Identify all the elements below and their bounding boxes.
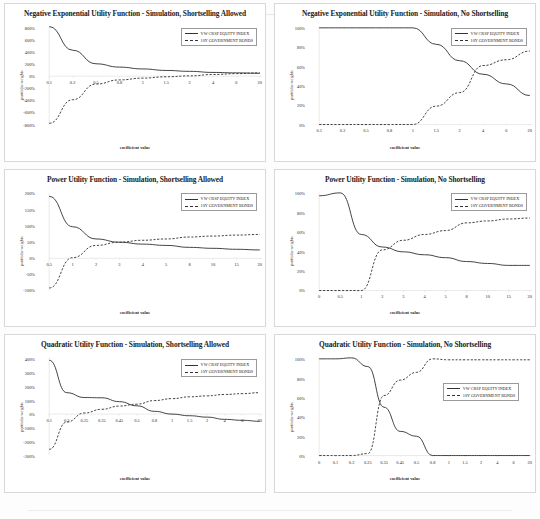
legend-label: VW CRSP EQUITY INDEX [201,196,250,201]
legend-entry: 10Y GOVERNMENT BONDS [455,38,524,43]
legend-entry: 10Y GOVERNMENT BONDS [447,393,516,398]
chart-legend[interactable]: VW CRSP EQUITY INDEX10Y GOVERNMENT BONDS [181,193,258,211]
chart-legend[interactable]: VW CRSP EQUITY INDEX10Y GOVERNMENT BONDS [181,28,258,46]
chart-title: Negative Exponential Utility Function - … [5,4,265,20]
chart-cell-neg-exp-no-shortselling: Negative Exponential Utility Function - … [270,0,540,166]
chart-cell-power-no-shortselling: Power Utility Function - Simulation, No … [270,166,540,332]
legend-label: VW CRSP EQUITY INDEX [201,31,250,36]
chart-power-no-shortselling[interactable]: Power Utility Function - Simulation, No … [274,169,536,328]
legend-entry: 10Y GOVERNMENT BONDS [185,203,254,208]
series-line [49,234,260,288]
solid-line-icon [455,197,468,201]
chart-cell-quadratic-shortselling-allowed: Quadratic Utility Function - Simulation,… [0,331,270,497]
plot-area: portfolio weightscoefficient value800%60… [5,20,265,151]
legend-label: 10Y GOVERNMENT BONDS [201,203,254,208]
legend-label: 10Y GOVERNMENT BONDS [463,393,516,398]
chart-title: Quadratic Utility Function - Simulation,… [5,335,265,351]
chart-power-shortselling-allowed[interactable]: Power Utility Function - Simulation, Sho… [4,169,266,328]
solid-line-icon [185,31,198,35]
legend-label: VW CRSP EQUITY INDEX [201,362,250,367]
legend-label: 10Y GOVERNMENT BONDS [471,38,524,43]
chart-title: Negative Exponential Utility Function - … [275,4,535,20]
plot-area: portfolio weightscoefficient value200%15… [5,186,265,317]
chart-cell-power-shortselling-allowed: Power Utility Function - Simulation, Sho… [0,166,270,332]
figure-page: Negative Exponential Utility Function - … [0,0,540,519]
series-line [49,73,260,123]
legend-entry: 10Y GOVERNMENT BONDS [185,38,254,43]
legend-label: 10Y GOVERNMENT BONDS [201,38,254,43]
legend-entry: VW CRSP EQUITY INDEX [185,362,254,367]
legend-entry: VW CRSP EQUITY INDEX [185,31,254,36]
dashed-line-icon [185,204,198,208]
solid-line-icon [185,363,198,367]
plot-svg [275,351,535,482]
legend-entry: 10Y GOVERNMENT BONDS [185,369,254,374]
series-line [49,393,260,450]
series-line [319,359,530,456]
legend-label: VW CRSP EQUITY INDEX [471,196,520,201]
chart-title: Power Utility Function - Simulation, Sho… [5,170,265,186]
series-line [319,218,530,291]
chart-grid: Negative Exponential Utility Function - … [0,0,540,497]
legend-label: 10Y GOVERNMENT BONDS [471,203,524,208]
chart-quadratic-no-shortselling[interactable]: Quadratic Utility Function - Simulation,… [274,334,536,493]
chart-title: Quadratic Utility Function - Simulation,… [275,335,535,351]
plot-area: portfolio weightscoefficient value100%80… [275,186,535,317]
plot-area: portfolio weightscoefficient value100%80… [275,20,535,151]
solid-line-icon [447,386,460,390]
solid-line-icon [455,31,468,35]
chart-cell-quadratic-no-shortselling: Quadratic Utility Function - Simulation,… [270,331,540,497]
dashed-line-icon [185,370,198,374]
solid-line-icon [185,197,198,201]
chart-legend[interactable]: VW CRSP EQUITY INDEX10Y GOVERNMENT BONDS [181,359,258,377]
chart-legend[interactable]: VW CRSP EQUITY INDEX10Y GOVERNMENT BONDS [443,383,520,401]
chart-neg-exp-shortselling-allowed[interactable]: Negative Exponential Utility Function - … [4,3,266,162]
series-line [319,358,530,456]
legend-label: VW CRSP EQUITY INDEX [471,31,520,36]
legend-label: VW CRSP EQUITY INDEX [463,386,512,391]
chart-neg-exp-no-shortselling[interactable]: Negative Exponential Utility Function - … [274,3,536,162]
chart-legend[interactable]: VW CRSP EQUITY INDEX10Y GOVERNMENT BONDS [451,193,528,211]
legend-label: 10Y GOVERNMENT BONDS [201,369,254,374]
chart-quadratic-shortselling-allowed[interactable]: Quadratic Utility Function - Simulation,… [4,334,266,493]
plot-area: portfolio weightscoefficient value100%80… [275,351,535,482]
legend-entry: VW CRSP EQUITY INDEX [447,386,516,391]
dashed-line-icon [447,393,460,397]
plot-area: portfolio weightscoefficient value400%30… [5,351,265,482]
page-bottom-rule [28,510,512,511]
legend-entry: 10Y GOVERNMENT BONDS [455,203,524,208]
chart-title: Power Utility Function - Simulation, No … [275,170,535,186]
legend-entry: VW CRSP EQUITY INDEX [455,31,524,36]
chart-cell-neg-exp-shortselling-allowed: Negative Exponential Utility Function - … [0,0,270,166]
dashed-line-icon [455,204,468,208]
legend-entry: VW CRSP EQUITY INDEX [185,196,254,201]
legend-entry: VW CRSP EQUITY INDEX [455,196,524,201]
dashed-line-icon [455,38,468,42]
chart-legend[interactable]: VW CRSP EQUITY INDEX10Y GOVERNMENT BONDS [451,28,528,46]
series-line [319,51,530,124]
dashed-line-icon [185,38,198,42]
